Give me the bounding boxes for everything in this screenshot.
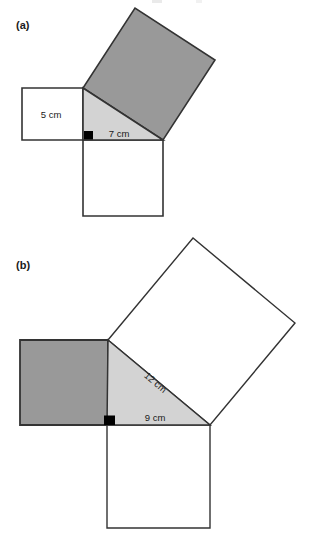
figure-b-drawing: 12 cm 9 cm — [0, 235, 322, 549]
dimension-label-horizontal-leg-a: 7 cm — [109, 128, 130, 139]
dimension-label-vertical-leg-a: 5 cm — [41, 109, 62, 120]
page-root: (a) 5 cm 7 cm (b) — [0, 0, 322, 549]
right-angle-marker-b — [104, 416, 115, 426]
square-on-vertical-leg-b — [20, 340, 108, 425]
figure-a: (a) 5 cm 7 cm — [0, 0, 322, 235]
figure-a-drawing: 5 cm 7 cm — [0, 0, 322, 235]
figure-b: (b) 12 cm 9 cm — [0, 235, 322, 549]
square-on-horizontal-leg-a — [83, 140, 163, 216]
dimension-label-horizontal-leg-b: 9 cm — [145, 412, 166, 423]
right-angle-marker-a — [84, 131, 93, 140]
square-on-horizontal-leg-b — [107, 425, 210, 528]
